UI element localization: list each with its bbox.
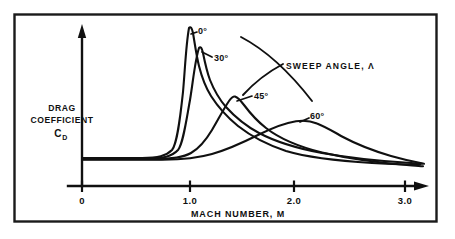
curve-sweep-45	[82, 96, 423, 166]
y-axis	[78, 24, 86, 186]
x-tick-label-3: 3.0	[398, 195, 412, 206]
x-axis-title: MACH NUMBER, M	[191, 209, 285, 219]
chart-canvas: 0 1.0 2.0 3.0 MACH NUMBER, M DRAG COEFFI…	[0, 0, 455, 239]
x-axis	[68, 181, 429, 193]
x-tick-label-1: 1.0	[183, 195, 197, 206]
sweep-angle-annotation: SWEEP ANGLE, Λ	[286, 61, 375, 71]
y-axis-arrowhead	[78, 24, 86, 38]
x-tick-label-2: 2.0	[287, 195, 301, 206]
y-axis-title-line1: DRAG	[48, 103, 75, 113]
series-label-0deg: 0°	[198, 26, 207, 36]
x-tick-label-0: 0	[79, 195, 85, 206]
y-axis-title-line2: COEFFICIENT	[31, 115, 94, 125]
series-label-30deg: 30°	[214, 53, 229, 63]
series-label-45deg: 45°	[254, 91, 269, 101]
y-axis-title-symbol: C	[54, 128, 62, 139]
series-label-60deg: 60°	[310, 111, 325, 121]
y-axis-title-subscript: D	[62, 134, 67, 141]
drag-coefficient-figure: 0 1.0 2.0 3.0 MACH NUMBER, M DRAG COEFFI…	[0, 0, 455, 239]
x-axis-arrowhead	[414, 181, 429, 190]
